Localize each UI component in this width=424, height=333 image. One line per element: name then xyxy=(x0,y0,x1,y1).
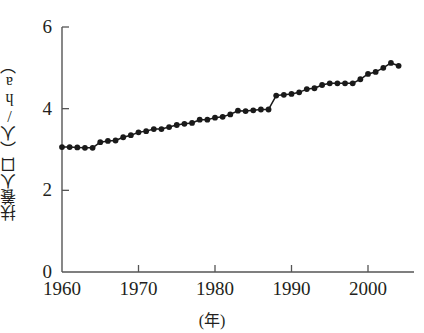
chart-series-markers xyxy=(59,60,401,151)
y-axis-label: 扶養人口（人/ha） xyxy=(2,58,28,248)
svg-text:4: 4 xyxy=(43,98,53,119)
chart-tick-labels: 024619601970198019902000 xyxy=(43,16,388,299)
y-axis-label-text: 扶養人口（人/ha） xyxy=(2,58,18,221)
x-axis-label-text: (年) xyxy=(199,312,226,329)
svg-text:2000: 2000 xyxy=(349,278,387,299)
svg-text:1980: 1980 xyxy=(196,278,234,299)
chart-series-line xyxy=(62,63,399,148)
svg-text:6: 6 xyxy=(43,16,53,37)
svg-text:1960: 1960 xyxy=(43,278,81,299)
svg-text:1970: 1970 xyxy=(120,278,158,299)
chart-axes xyxy=(62,27,414,272)
chart-plot-area: 024619601970198019902000 xyxy=(0,0,424,333)
x-axis-label: (年) xyxy=(0,307,424,331)
svg-text:2: 2 xyxy=(43,179,53,200)
svg-text:1990: 1990 xyxy=(273,278,311,299)
chart-container: 扶養人口（人/ha） 024619601970198019902000 (年) xyxy=(0,0,424,333)
